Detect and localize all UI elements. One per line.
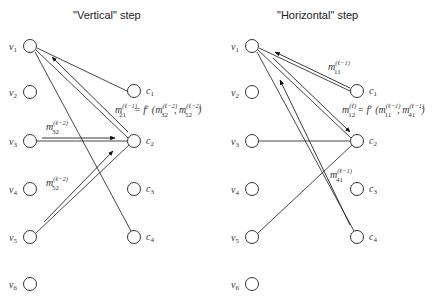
check-node-c4 xyxy=(351,231,364,244)
variable-nodes: v1 v2 v3 v4 v5 v6 xyxy=(231,40,259,293)
variable-nodes: v1 v2 v3 v4 v5 v6 xyxy=(9,40,37,293)
variable-node-v1 xyxy=(24,40,37,53)
message-label-m41: m(ℓ−1)41 xyxy=(330,167,352,184)
variable-label-v2: v2 xyxy=(231,87,239,100)
message-label-m32: m(ℓ−2)32 xyxy=(46,119,68,136)
check-node-c2 xyxy=(128,135,141,148)
variable-label-v6: v6 xyxy=(231,279,239,292)
variable-node-v2 xyxy=(246,86,259,99)
edge-v1-c4 xyxy=(35,52,131,231)
update-formula: m(ℓ−1)21= fc(m(ℓ−2)32, m(ℓ−2)52) xyxy=(115,102,202,119)
variable-node-v4 xyxy=(246,183,259,196)
variable-node-v3 xyxy=(24,135,37,148)
variable-node-v1 xyxy=(246,40,259,53)
variable-node-v2 xyxy=(24,86,37,99)
variable-label-v5: v5 xyxy=(231,232,239,245)
panel-title: "Vertical" step xyxy=(73,9,141,21)
variable-label-v3: v3 xyxy=(231,136,239,149)
check-node-c1 xyxy=(128,85,141,98)
variable-label-v5: v5 xyxy=(9,232,17,245)
variable-node-v6 xyxy=(246,278,259,291)
check-label-c3: c3 xyxy=(369,183,377,196)
edge-v5-c2 xyxy=(258,145,352,233)
variable-node-v5 xyxy=(24,231,37,244)
check-node-c1 xyxy=(351,85,364,98)
vertical-step-panel: "Vertical" step v1 v2 v3 v4 v5 v6 xyxy=(9,9,202,292)
check-label-c1: c1 xyxy=(146,85,154,98)
variable-node-v4 xyxy=(24,183,37,196)
tanner-graph-figure: "Vertical" step v1 v2 v3 v4 v5 v6 xyxy=(0,0,448,306)
check-label-c2: c2 xyxy=(146,135,154,148)
edge-v5-c2 xyxy=(36,145,129,233)
horizontal-step-panel: "Horizontal" step v1 v2 v3 v4 v5 v6 xyxy=(231,9,425,292)
variable-node-v3 xyxy=(246,135,259,148)
edge-v1-c1 xyxy=(37,48,127,91)
variable-label-v4: v4 xyxy=(9,184,17,197)
variable-label-v4: v4 xyxy=(231,184,239,197)
check-label-c1: c1 xyxy=(369,85,377,98)
check-node-c3 xyxy=(128,183,141,196)
variable-label-v3: v3 xyxy=(9,136,17,149)
message-label-m11: m(ℓ−1)11 xyxy=(328,59,350,76)
variable-label-v1: v1 xyxy=(9,41,17,54)
variable-label-v6: v6 xyxy=(9,279,17,292)
message-label-m52: m(ℓ−2)52 xyxy=(46,175,68,192)
message-arrow-c4-v1 xyxy=(280,80,350,225)
check-node-c4 xyxy=(128,231,141,244)
check-label-c4: c4 xyxy=(146,231,154,244)
check-label-c2: c2 xyxy=(369,135,377,148)
variable-label-v1: v1 xyxy=(231,41,239,54)
check-node-c3 xyxy=(351,183,364,196)
panel-title: "Horizontal" step xyxy=(277,9,358,21)
variable-node-v5 xyxy=(246,231,259,244)
variable-label-v2: v2 xyxy=(9,87,17,100)
variable-node-v6 xyxy=(24,278,37,291)
check-label-c3: c3 xyxy=(146,183,154,196)
check-label-c4: c4 xyxy=(369,231,377,244)
update-formula: m(ℓ)12= fv(m(ℓ−1)11, m(ℓ−1)41) xyxy=(342,102,425,119)
check-node-c2 xyxy=(351,135,364,148)
